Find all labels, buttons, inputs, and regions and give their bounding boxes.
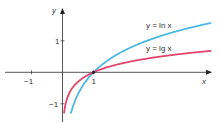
lg-curve-label: y = lg x <box>146 44 172 53</box>
x-tick-label-neg1: −1 <box>24 77 34 86</box>
y-tick-label-1: 1 <box>55 37 60 46</box>
x-axis-label: x <box>201 77 207 86</box>
x-tick-label-1: 1 <box>92 77 97 86</box>
y-tick-label-neg1: −1 <box>49 100 59 109</box>
ln-curve-label: y = ln x <box>146 21 172 30</box>
y-axis-label: y <box>51 6 57 15</box>
intersection-point <box>92 71 95 74</box>
ln-curve <box>71 23 211 114</box>
log-functions-chart: y x −1 1 1 −1 y = ln x y = lg x <box>0 0 220 123</box>
